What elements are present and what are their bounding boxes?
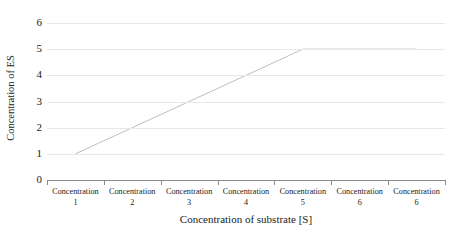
y-axis-tick-label: 2 <box>26 122 42 133</box>
x-axis-tick <box>218 180 219 185</box>
x-axis-category-number: 2 <box>104 197 161 208</box>
line-chart: Concentration of ES 6543210 Concentratio… <box>0 0 466 238</box>
x-axis-category-number: 6 <box>388 197 445 208</box>
y-axis-tick-label: 0 <box>26 174 42 185</box>
gridline <box>47 49 445 50</box>
y-axis-title: Concentration of ES <box>0 18 20 178</box>
x-axis-category-label: Concentration6 <box>331 186 388 208</box>
y-axis-tick-label: 5 <box>26 43 42 54</box>
x-axis-category-number: 1 <box>47 197 104 208</box>
x-axis-tick <box>274 180 275 185</box>
x-axis-tick <box>161 180 162 185</box>
x-axis-line <box>47 180 445 181</box>
x-axis-category-name: Concentration <box>331 186 388 197</box>
x-axis-category-label: Concentration6 <box>388 186 445 208</box>
x-axis-category-name: Concentration <box>274 186 331 197</box>
x-axis-category-label: Concentration5 <box>274 186 331 208</box>
gridline <box>47 154 445 155</box>
x-axis-category-name: Concentration <box>47 186 104 197</box>
y-axis-tick-labels: 6543210 <box>20 0 42 238</box>
y-axis-tick-label: 1 <box>26 148 42 159</box>
x-axis-category-label: Concentration4 <box>218 186 275 208</box>
x-axis-category-label: Concentration2 <box>104 186 161 208</box>
y-axis-title-text: Concentration of ES <box>5 55 16 141</box>
gridline <box>47 102 445 103</box>
plot-area <box>47 23 445 180</box>
x-axis-category-name: Concentration <box>104 186 161 197</box>
x-axis-category-number: 5 <box>274 197 331 208</box>
x-axis-category-name: Concentration <box>218 186 275 197</box>
gridline <box>47 128 445 129</box>
x-axis-category-name: Concentration <box>161 186 218 197</box>
x-axis-category-number: 3 <box>161 197 218 208</box>
x-axis-tick <box>331 180 332 185</box>
x-axis-tick <box>47 180 48 185</box>
gridline <box>47 23 445 24</box>
x-axis-category-label: Concentration3 <box>161 186 218 208</box>
x-axis-category-name: Concentration <box>388 186 445 197</box>
x-axis-category-number: 6 <box>331 197 388 208</box>
x-axis-title: Concentration of substrate [S] <box>47 213 445 225</box>
y-axis-tick-label: 6 <box>26 17 42 28</box>
y-axis-tick-label: 3 <box>26 96 42 107</box>
x-axis-tick-labels: Concentration1Concentration2Concentratio… <box>47 186 445 214</box>
y-axis-tick-label: 4 <box>26 69 42 80</box>
gridline <box>47 75 445 76</box>
x-axis-tick <box>388 180 389 185</box>
x-axis-category-number: 4 <box>218 197 275 208</box>
x-axis-category-label: Concentration1 <box>47 186 104 208</box>
x-axis-tick <box>445 180 446 185</box>
x-axis-tick <box>104 180 105 185</box>
